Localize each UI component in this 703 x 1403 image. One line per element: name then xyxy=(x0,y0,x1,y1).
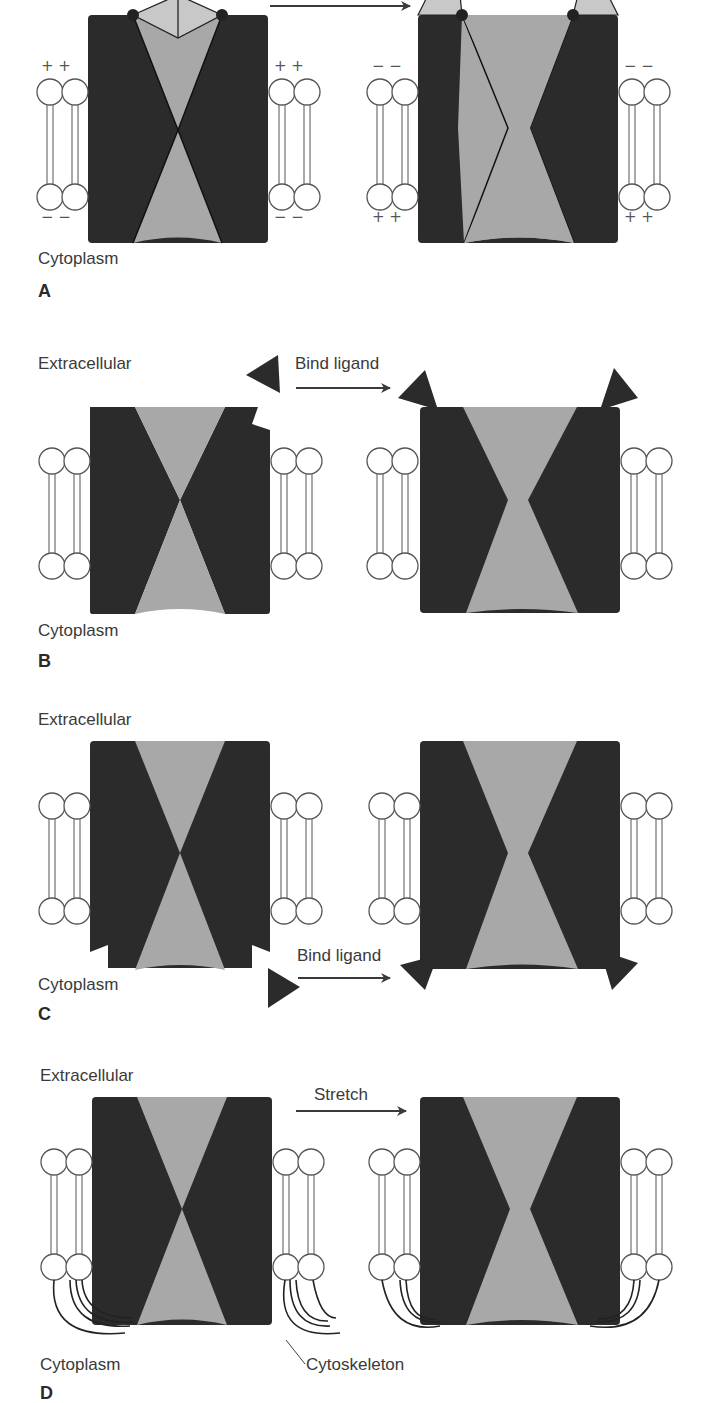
panel-letter-c: C xyxy=(38,1005,51,1023)
panel-letter-b: B xyxy=(38,652,51,670)
charge-label: + + xyxy=(274,59,304,74)
extracellular-label: Extracellular xyxy=(38,355,132,372)
bound-ligand-right xyxy=(600,368,638,410)
channel-open xyxy=(369,1097,672,1327)
cytoplasm-label: Cytoplasm xyxy=(38,622,118,639)
channel-closed xyxy=(37,0,320,243)
panel-d xyxy=(41,1097,672,1364)
cytoplasm-label: Cytoplasm xyxy=(38,250,118,267)
arrow-label-bind-ligand: Bind ligand xyxy=(297,947,381,964)
charge-label: − − xyxy=(41,210,71,225)
channel-closed xyxy=(39,741,322,970)
extracellular-label: Extracellular xyxy=(38,711,132,728)
arrow-label-stretch: Stretch xyxy=(314,1086,368,1103)
arrow-label-bind-ligand: Bind ligand xyxy=(295,355,379,372)
channel-open xyxy=(369,741,672,990)
ligand-triangle xyxy=(246,355,280,393)
channel-open xyxy=(367,0,670,243)
cytoplasm-label: Cytoplasm xyxy=(40,1356,120,1373)
channel-closed xyxy=(41,1097,340,1364)
panel-b xyxy=(39,355,672,614)
cytoplasm-label: Cytoplasm xyxy=(38,976,118,993)
bound-ligand-left xyxy=(398,370,438,410)
bound-ligand-left xyxy=(400,955,438,990)
charge-label: − − xyxy=(274,210,304,225)
panel-c xyxy=(39,741,672,1008)
charge-label: + + xyxy=(624,210,654,225)
channel-closed xyxy=(39,407,322,614)
extracellular-label: Extracellular xyxy=(40,1067,134,1084)
cytoskeleton-callout-line xyxy=(286,1340,305,1364)
ligand-triangle xyxy=(268,968,300,1008)
cytoskeleton-label: Cytoskeleton xyxy=(306,1356,404,1373)
charge-label: + + xyxy=(372,210,402,225)
charge-label: + + xyxy=(41,59,71,74)
channel-open xyxy=(367,368,672,613)
panel-a xyxy=(37,0,670,243)
panel-letter-a: A xyxy=(38,282,51,300)
charge-label: − − xyxy=(372,59,402,74)
panel-letter-d: D xyxy=(40,1384,53,1402)
charge-label: − − xyxy=(624,59,654,74)
